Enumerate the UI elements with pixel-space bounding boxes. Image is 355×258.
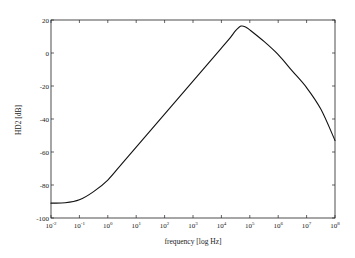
x-tick-label: 107 xyxy=(302,221,312,230)
x-tick-label: 101 xyxy=(131,221,141,230)
y-axis-label: HD2 [dB] xyxy=(14,105,23,135)
y-tick-label: -60 xyxy=(40,149,50,157)
plot-area-frame xyxy=(51,20,335,218)
x-axis-label: frequency [log Hz] xyxy=(164,237,221,246)
x-tick-label: 102 xyxy=(160,221,170,230)
y-tick-label: -100 xyxy=(36,215,49,223)
y-tick-label: 20 xyxy=(42,17,50,25)
hd2-frequency-chart: HD2 [dB] frequency [log Hz] 10-210-11001… xyxy=(0,0,355,258)
y-tick-label: -80 xyxy=(40,182,50,190)
x-tick-label: 108 xyxy=(330,221,340,230)
x-tick-label: 10-1 xyxy=(74,221,86,230)
y-tick-label: -20 xyxy=(40,83,50,91)
hd2-curve xyxy=(51,26,335,203)
x-tick-label: 103 xyxy=(188,221,198,230)
x-tick-label: 100 xyxy=(103,221,113,230)
x-tick-label: 105 xyxy=(245,221,255,230)
y-tick-label: 0 xyxy=(46,50,50,58)
x-tick-label: 104 xyxy=(217,221,227,230)
axis-ticks: 10-210-1100101102103104105106107108200-2… xyxy=(36,17,340,231)
y-tick-label: -40 xyxy=(40,116,50,124)
x-tick-label: 106 xyxy=(273,221,283,230)
svg-text:HD2 [dB]: HD2 [dB] xyxy=(14,105,23,135)
